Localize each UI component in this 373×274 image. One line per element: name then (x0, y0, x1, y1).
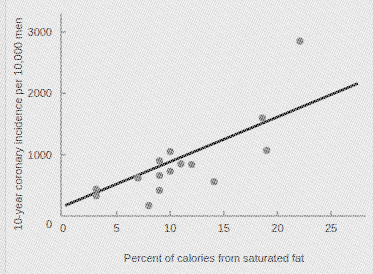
data-point (211, 178, 218, 185)
data-point (93, 192, 100, 199)
data-point (259, 114, 266, 121)
data-point (93, 185, 100, 192)
data-point (134, 174, 141, 181)
data-point (177, 160, 184, 167)
scatter-plot-figure: 10002000300000510152025Percent of calori… (0, 0, 373, 274)
y-axis-tick-label: 3000 (28, 26, 52, 38)
data-point (188, 161, 195, 168)
data-point (156, 187, 163, 194)
regression-line (65, 84, 358, 206)
x-axis-tick-label: 10 (164, 222, 176, 234)
axes-group (61, 14, 366, 216)
data-point (263, 147, 270, 154)
x-axis-tick-label: 15 (218, 222, 230, 234)
trend-line-segment (65, 84, 358, 206)
x-axis-tick-label: 20 (271, 222, 283, 234)
y-axis-title: 10-year coronary incidence per 10,000 me… (12, 18, 24, 231)
data-point (167, 148, 174, 155)
data-point (156, 172, 163, 179)
plot-canvas: 10002000300000510152025Percent of calori… (0, 0, 373, 274)
data-point (296, 38, 303, 45)
data-point (156, 157, 163, 164)
x-axis-title: Percent of calories from saturated fat (124, 252, 304, 264)
y-axis-tick-label: 1000 (28, 149, 52, 161)
x-axis-tick-label: 0 (60, 222, 66, 234)
x-axis-tick-label: 5 (114, 222, 120, 234)
data-point (167, 168, 174, 175)
y-axis-origin-label: 0 (46, 218, 52, 230)
data-point (145, 202, 152, 209)
y-axis-tick-label: 2000 (28, 87, 52, 99)
x-axis-tick-label: 25 (325, 222, 337, 234)
data-points-group (93, 38, 304, 210)
